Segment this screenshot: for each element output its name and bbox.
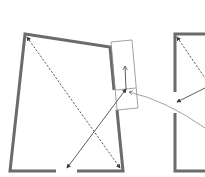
floor-plan-diagram <box>0 0 205 177</box>
right-room-upper-wall <box>175 34 205 92</box>
up-arrow <box>125 66 126 89</box>
curved-connector <box>129 92 205 128</box>
right-room <box>175 34 205 171</box>
solid-diagonal-arrow <box>67 89 126 168</box>
wall-box-outline <box>111 40 138 110</box>
dashed-diagonal-arrow <box>27 37 120 168</box>
left-room-top-left-wall <box>10 34 114 171</box>
wall-box <box>111 40 138 110</box>
right-room-solid-arrow <box>177 88 205 102</box>
left-room <box>10 34 123 171</box>
right-room-dashed-arrow <box>177 37 205 78</box>
right-room-lower-wall <box>175 113 205 171</box>
